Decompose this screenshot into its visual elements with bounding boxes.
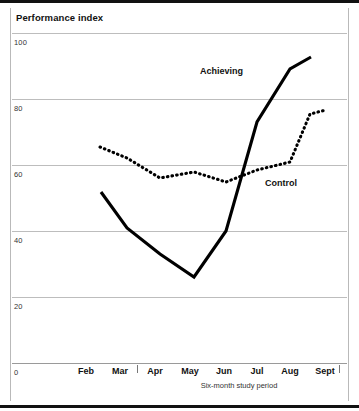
study-period-bracket: [137, 365, 340, 373]
xtick-label-feb: Feb: [78, 366, 94, 376]
study-period-caption: Six-month study period: [201, 381, 278, 390]
plot-lines: [0, 0, 359, 411]
series-line-achieving: [101, 57, 311, 277]
chart-figure: Performance index 100 80 60 40 20 0 Achi…: [0, 0, 359, 411]
series-label-control: Control: [265, 178, 297, 188]
series-line-control: [100, 110, 326, 182]
series-label-achieving: Achieving: [200, 66, 243, 76]
xtick-label-mar: Mar: [112, 366, 128, 376]
